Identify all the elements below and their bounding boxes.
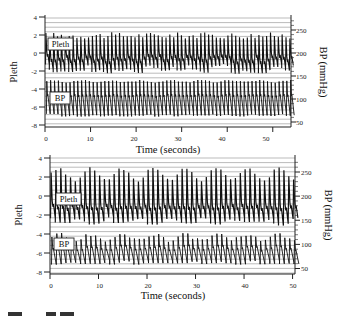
x-tick: 20 (131, 135, 139, 143)
bottom-y-axis-title: Pleth (13, 203, 24, 225)
legend-bp-label: BP (59, 239, 70, 249)
top-legend-pleth: Pleth (48, 38, 73, 50)
y-tick: -2 (36, 212, 42, 220)
y2-tick: 150 (301, 217, 312, 225)
y-tick: -8 (36, 269, 42, 277)
figure: 4 2 0 -2 -4 -6 -8 250 200 150 100 50 0 1… (0, 0, 349, 316)
bottom-x-tick-labels: 0 10 20 30 40 50 (49, 282, 297, 290)
top-chart: 4 2 0 -2 -4 -6 -8 250 200 150 100 50 0 1… (8, 14, 329, 157)
bottom-legend-pleth: Pleth (56, 193, 81, 205)
y2-tick: 250 (301, 169, 312, 177)
y2-tick: 100 (301, 241, 312, 249)
bottom-legend-bp: BP (54, 238, 74, 250)
x-tick: 30 (175, 135, 183, 143)
y2-tick: 200 (301, 193, 312, 201)
y2-tick: 200 (296, 50, 307, 58)
x-tick: 0 (44, 135, 48, 143)
y-tick: -4 (36, 231, 42, 239)
y-tick: 0 (39, 193, 43, 201)
legend-bp-label: BP (55, 93, 66, 103)
y-tick: 0 (34, 50, 38, 58)
x-tick: 30 (193, 282, 201, 290)
y2-tick: 50 (296, 119, 304, 127)
x-tick: 20 (145, 282, 153, 290)
y-tick: 2 (34, 32, 38, 40)
x-tick: 10 (96, 282, 104, 290)
y-tick: -4 (31, 86, 37, 94)
top-y2-tick-labels: 250 200 150 100 50 (296, 27, 307, 127)
x-tick: 0 (49, 282, 53, 290)
y-tick: -6 (31, 104, 37, 112)
top-y2-axis-title: BP (mmHg) (317, 46, 329, 98)
bottom-bp-trace (52, 233, 299, 265)
x-tick: 50 (263, 135, 271, 143)
top-legend-bp: BP (50, 92, 70, 104)
x-tick: 40 (219, 135, 227, 143)
legend-pleth-label: Pleth (60, 194, 78, 204)
y-tick: 4 (34, 14, 38, 22)
y-tick: 2 (39, 174, 43, 182)
bottom-y-tick-labels: 4 2 0 -2 -4 -6 -8 (36, 155, 42, 278)
bottom-x-axis-title: Time (seconds) (141, 290, 206, 302)
bottom-chart: 4 2 0 -2 -4 -6 -8 250 200 150 100 50 0 1… (13, 155, 334, 303)
y2-tick: 50 (301, 265, 309, 273)
y-tick: 4 (39, 155, 43, 163)
bottom-y2-tick-labels: 250 200 150 100 50 (301, 169, 312, 274)
x-tick: 10 (87, 135, 95, 143)
y-tick: -8 (31, 122, 37, 130)
y-tick: -6 (36, 250, 42, 258)
top-y-axis-title: Pleth (8, 60, 19, 82)
y-tick: -2 (31, 68, 37, 76)
y2-tick: 100 (296, 96, 307, 104)
x-tick: 50 (290, 282, 298, 290)
x-tick: 40 (242, 282, 250, 290)
top-x-axis-title: Time (seconds) (136, 144, 201, 156)
top-pleth-trace (46, 32, 294, 73)
bottom-pleth-trace (51, 167, 298, 225)
legend-pleth-label: Pleth (52, 39, 70, 49)
caption-fragment (8, 312, 74, 316)
y2-tick: 250 (296, 27, 307, 35)
y2-tick: 150 (296, 73, 307, 81)
top-bp-trace (46, 80, 294, 117)
top-y-tick-labels: 4 2 0 -2 -4 -6 -8 (31, 14, 37, 130)
bottom-y2-axis-title: BP (mmHg) (322, 189, 334, 241)
top-x-tick-labels: 0 10 20 30 40 50 (44, 135, 270, 143)
